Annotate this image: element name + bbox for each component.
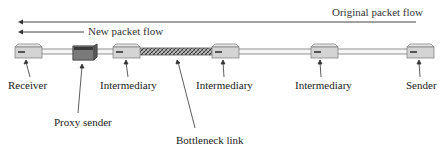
intermediary2-device-icon <box>212 44 239 58</box>
link-proxy-intermediary1 <box>96 49 114 54</box>
intermediary3-label: Intermediary <box>295 79 352 91</box>
new-flow-arrow <box>18 30 84 35</box>
intermediary3-device-icon <box>311 44 338 58</box>
bottleneck-link <box>139 48 213 55</box>
proxy-sender-label: Proxy sender <box>54 116 112 128</box>
proxy-device-icon <box>73 44 97 60</box>
intermediary2-label: Intermediary <box>196 79 253 91</box>
sender-label: Sender <box>406 79 437 91</box>
intermediary1-device-icon <box>113 44 140 58</box>
receiver-device-icon <box>15 44 42 58</box>
link-receiver-proxy <box>41 49 75 54</box>
link-intermediary2-intermediary3 <box>238 49 312 54</box>
new-flow-label: New packet flow <box>88 25 163 37</box>
network-diagram <box>0 0 446 152</box>
original-flow-arrow <box>18 20 416 25</box>
sender-device-icon <box>407 44 434 58</box>
receiver-label: Receiver <box>8 79 47 91</box>
link-intermediary3-sender <box>337 49 408 54</box>
intermediary1-label: Intermediary <box>100 79 157 91</box>
bottleneck-link-label: Bottleneck link <box>176 134 244 146</box>
original-flow-label: Original packet flow <box>332 6 423 18</box>
